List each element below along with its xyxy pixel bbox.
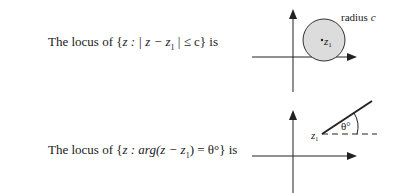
angle-arc: [354, 113, 358, 134]
center-point: [321, 39, 323, 41]
locus-diagrams: z1 radius c θ° z1: [0, 0, 400, 193]
point-label: z1: [310, 129, 318, 142]
radius-label: radius c: [341, 11, 376, 23]
x-axis-arrow-icon: [347, 152, 357, 160]
disc-diagram: z1 radius c: [252, 9, 376, 92]
angle-label: θ°: [341, 120, 351, 132]
x-axis-arrow-icon: [347, 53, 357, 61]
ray-diagram: θ° z1: [252, 101, 377, 193]
y-axis-arrow-icon: [289, 110, 297, 120]
y-axis-arrow-icon: [289, 9, 297, 19]
